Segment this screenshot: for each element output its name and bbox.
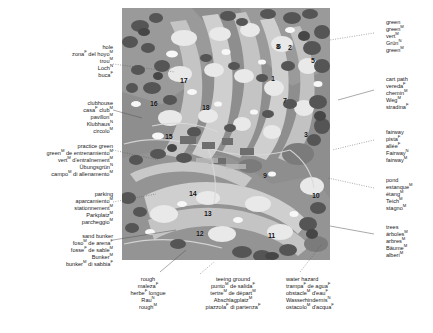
label-pond: pond estanqueM étangM TeichM stagnoM [386,177,413,212]
label-teeing-ground: teeing ground puntoM de salidaF tertreM … [185,276,281,311]
label-green: green greenM vertM GrünN greenM [386,19,404,54]
label-hole-es: zonaF del hoyoM [14,51,113,58]
hole-number-12: 12 [196,230,203,237]
label-sand-bunker-it: bunkerM di sabbiaF [8,261,113,268]
label-pond-it: stagnoM [386,205,413,212]
hole-number-16: 16 [150,100,157,107]
hole-number-13: 13 [204,210,211,217]
hole-number-8: 8 [276,43,280,50]
label-practice-green-it: campoM di allenamentoM [2,171,113,178]
hole-number-15: 15 [165,133,172,140]
label-trees-it: alberiM [386,252,408,259]
label-parking-it: parcheggioM [14,219,113,226]
hole-number-7: 7 [283,97,287,104]
hole-number-2: 2 [288,44,292,51]
label-teeing-ground-it: piazzolaF di partenzaF [185,304,281,311]
label-water-hazard: water hazard trampaF de aguaF obstacleM … [286,276,374,311]
hole-number-14: 14 [189,190,196,197]
label-rough: rough malezaF herbeF longue RauN roughM [104,276,192,311]
hole-number-1: 1 [271,75,275,82]
hole-number-3: 3 [304,131,308,138]
hole-number-5: 5 [311,57,315,64]
label-clubhouse: clubhouse casaF clubM pavillonM Klubhaus… [14,100,113,135]
label-fairway-it: fairwayM [386,157,409,164]
page-root: 123456789101112131415161718 hole zonaF d… [0,0,433,333]
label-sand-bunker: sand bunker fosoM de arenaF fosseF de sa… [8,233,113,268]
golf-course-map: 123456789101112131415161718 [122,8,330,260]
hole-number-11: 11 [268,232,275,239]
hole-number-9: 9 [263,172,267,179]
label-hole: hole zonaF del hoyoM trouM LochN bucaF [14,44,113,79]
hole-number-10: 10 [312,192,319,199]
label-hole-it: bucaF [14,72,113,79]
label-fairway: fairway pistaF alléeF FairwayN fairwayM [386,129,409,164]
label-practice-green: practice green greenM de entrenamientoM … [2,143,113,178]
label-trees: trees árbolesM arbresM BäumeM alberiM [386,224,408,259]
label-water-hazard-it: ostacoloM d'acquaF [286,304,374,311]
label-cart-path-it: stradinaF [386,104,408,111]
label-rough-it: roughM [104,304,192,311]
label-cart-path: cart path veredaF cheminM WegM stradinaF [386,76,408,111]
label-clubhouse-it: circoloM [14,128,113,135]
hole-number-17: 17 [180,77,187,84]
label-parking: parking aparcamientoM stationnementM Par… [14,191,113,226]
map-illustration [122,8,330,260]
hole-number-18: 18 [202,104,209,111]
label-green-it: greenM [386,47,404,54]
